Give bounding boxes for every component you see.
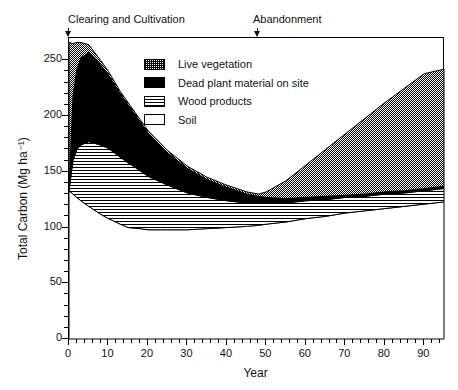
legend-item-dead: Dead plant material on site bbox=[144, 75, 309, 91]
x-tick-minor-46 bbox=[250, 339, 251, 343]
x-tick-minor-48 bbox=[257, 339, 258, 343]
x-tick-minor-6 bbox=[92, 339, 93, 343]
y-tick-label-250: 250 bbox=[22, 52, 62, 64]
y-tick-minor-240 bbox=[64, 70, 68, 71]
x-tick-minor-14 bbox=[123, 339, 124, 343]
y-tick-minor-90 bbox=[64, 238, 68, 239]
y-tick-minor-160 bbox=[64, 160, 68, 161]
x-tick-minor-76 bbox=[368, 339, 369, 343]
y-tick-major-250 bbox=[62, 59, 68, 60]
legend-item-soil: Soil bbox=[144, 112, 309, 128]
x-tick-label-70: 70 bbox=[328, 347, 360, 359]
y-tick-minor-40 bbox=[64, 293, 68, 294]
x-tick-major-40 bbox=[226, 339, 227, 345]
x-tick-minor-2 bbox=[76, 339, 77, 343]
y-tick-major-0 bbox=[62, 338, 68, 339]
x-tick-minor-34 bbox=[202, 339, 203, 343]
y-tick-major-150 bbox=[62, 171, 68, 172]
x-tick-major-80 bbox=[384, 339, 385, 345]
x-axis-title: Year bbox=[226, 366, 286, 380]
x-tick-minor-72 bbox=[352, 339, 353, 343]
legend-label-wood: Wood products bbox=[178, 95, 252, 107]
x-tick-major-60 bbox=[305, 339, 306, 345]
x-tick-major-30 bbox=[186, 339, 187, 345]
x-tick-major-90 bbox=[423, 339, 424, 345]
x-tick-minor-32 bbox=[194, 339, 195, 343]
annotation-label-abandonment: Abandonment bbox=[253, 13, 322, 25]
x-tick-minor-92 bbox=[431, 339, 432, 343]
legend-label-dead: Dead plant material on site bbox=[178, 77, 309, 89]
legend-label-live: Live vegetation bbox=[178, 58, 252, 70]
legend-swatch-live-vegetation-icon bbox=[144, 59, 165, 70]
y-tick-major-50 bbox=[62, 282, 68, 283]
y-tick-minor-110 bbox=[64, 215, 68, 216]
x-tick-major-70 bbox=[344, 339, 345, 345]
y-tick-minor-60 bbox=[64, 271, 68, 272]
x-tick-minor-22 bbox=[155, 339, 156, 343]
x-tick-minor-66 bbox=[329, 339, 330, 343]
x-tick-minor-84 bbox=[400, 339, 401, 343]
y-tick-label-200: 200 bbox=[22, 108, 62, 120]
y-tick-major-200 bbox=[62, 115, 68, 116]
x-tick-minor-58 bbox=[297, 339, 298, 343]
x-tick-major-0 bbox=[68, 339, 69, 345]
x-tick-label-20: 20 bbox=[131, 347, 163, 359]
x-tick-minor-54 bbox=[281, 339, 282, 343]
y-tick-minor-190 bbox=[64, 126, 68, 127]
x-tick-minor-38 bbox=[218, 339, 219, 343]
x-tick-label-0: 0 bbox=[52, 347, 84, 359]
x-tick-major-20 bbox=[147, 339, 148, 345]
x-tick-minor-82 bbox=[392, 339, 393, 343]
legend-swatch-wood-products-icon bbox=[144, 96, 165, 107]
x-tick-minor-36 bbox=[210, 339, 211, 343]
y-tick-minor-10 bbox=[64, 327, 68, 328]
x-tick-label-50: 50 bbox=[249, 347, 281, 359]
annotation-label-clearing: Clearing and Cultivation bbox=[68, 13, 185, 25]
cropped-caption-fragment bbox=[70, 0, 400, 3]
y-tick-minor-140 bbox=[64, 182, 68, 183]
x-tick-major-10 bbox=[107, 339, 108, 345]
x-tick-minor-12 bbox=[115, 339, 116, 343]
y-tick-minor-70 bbox=[64, 260, 68, 261]
legend-swatch-dead-plant-material-icon bbox=[144, 77, 165, 88]
figure-root: Clearing and Cultivation Abandonment 010… bbox=[0, 0, 458, 390]
x-tick-label-40: 40 bbox=[210, 347, 242, 359]
x-tick-minor-52 bbox=[273, 339, 274, 343]
x-tick-label-80: 80 bbox=[368, 347, 400, 359]
legend-swatch-soil-icon bbox=[144, 114, 165, 125]
x-tick-minor-26 bbox=[171, 339, 172, 343]
x-tick-major-50 bbox=[265, 339, 266, 345]
y-tick-minor-80 bbox=[64, 249, 68, 250]
y-tick-minor-130 bbox=[64, 193, 68, 194]
x-tick-minor-88 bbox=[415, 339, 416, 343]
x-tick-minor-8 bbox=[100, 339, 101, 343]
x-tick-minor-18 bbox=[139, 339, 140, 343]
y-tick-minor-30 bbox=[64, 305, 68, 306]
x-tick-minor-16 bbox=[131, 339, 132, 343]
x-tick-minor-78 bbox=[376, 339, 377, 343]
x-tick-minor-74 bbox=[360, 339, 361, 343]
x-tick-minor-86 bbox=[407, 339, 408, 343]
x-tick-label-30: 30 bbox=[170, 347, 202, 359]
x-tick-minor-4 bbox=[84, 339, 85, 343]
x-tick-label-10: 10 bbox=[91, 347, 123, 359]
x-tick-minor-42 bbox=[234, 339, 235, 343]
x-tick-minor-94 bbox=[439, 339, 440, 343]
y-tick-label-50: 50 bbox=[22, 275, 62, 287]
y-tick-minor-180 bbox=[64, 137, 68, 138]
legend: Live vegetation Dead plant material on s… bbox=[144, 56, 309, 130]
legend-item-wood: Wood products bbox=[144, 93, 309, 109]
x-tick-minor-56 bbox=[289, 339, 290, 343]
x-tick-minor-62 bbox=[313, 339, 314, 343]
x-tick-minor-44 bbox=[242, 339, 243, 343]
y-tick-label-0: 0 bbox=[22, 331, 62, 343]
y-tick-minor-210 bbox=[64, 104, 68, 105]
y-tick-minor-170 bbox=[64, 148, 68, 149]
y-tick-minor-20 bbox=[64, 316, 68, 317]
x-tick-label-60: 60 bbox=[289, 347, 321, 359]
y-tick-minor-120 bbox=[64, 204, 68, 205]
x-tick-minor-28 bbox=[179, 339, 180, 343]
y-axis-title: Total Carbon (Mg ha⁻¹) bbox=[16, 137, 30, 260]
x-tick-label-90: 90 bbox=[407, 347, 439, 359]
y-tick-minor-230 bbox=[64, 82, 68, 83]
